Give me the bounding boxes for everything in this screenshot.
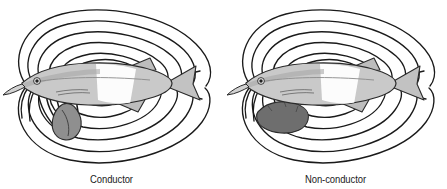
panel-conductor: Conductor [0, 0, 223, 189]
fish-highlight [96, 64, 136, 104]
electric-field-figure: Conductor [0, 0, 447, 189]
panel-nonconductor: Non-conductor [224, 0, 447, 189]
fish-eye [34, 78, 41, 85]
fish-nonconductor [227, 58, 424, 112]
fish-highlight [320, 64, 360, 104]
nonconductor-object [257, 101, 309, 133]
panel-nonconductor-caption: Non-conductor [240, 173, 432, 185]
fish-caudal-fin [392, 66, 424, 100]
fish-eye [258, 78, 265, 85]
panel-conductor-caption: Conductor [16, 173, 208, 185]
fish-caudal-fin [168, 66, 200, 100]
fish-conductor [3, 58, 200, 112]
